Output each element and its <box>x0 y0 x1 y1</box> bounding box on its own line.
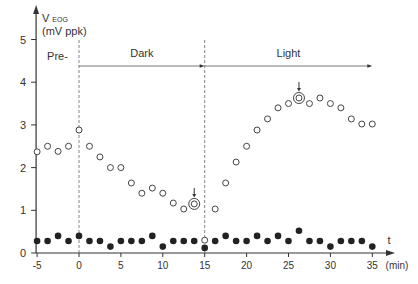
data-point-open <box>160 190 166 196</box>
data-point-open <box>128 180 134 186</box>
data-point-filled <box>233 238 240 245</box>
data-point-filled <box>243 238 250 245</box>
y-tick-label: 2 <box>20 162 26 174</box>
x-tick-label: 30 <box>325 260 337 271</box>
y-tick-label: 0 <box>20 247 26 259</box>
data-point-filled <box>139 238 146 245</box>
data-point-filled <box>44 238 51 245</box>
phase-arrowhead-icon <box>367 64 372 68</box>
data-point-filled <box>275 233 282 240</box>
data-point-open <box>317 95 323 101</box>
data-point-filled <box>34 238 41 245</box>
data-point-filled <box>170 238 177 245</box>
x-axis-label: t <box>387 234 390 246</box>
data-point-filled <box>128 238 135 245</box>
data-point-open <box>223 180 229 186</box>
data-point-open <box>181 206 187 212</box>
axes: 012345-505101520253035t(min)VEOG(mV ppk) <box>20 5 408 271</box>
data-point-open <box>338 105 344 111</box>
eog-chart: 012345-505101520253035t(min)VEOG(mV ppk)… <box>0 0 418 284</box>
y-tick-label: 5 <box>20 34 26 46</box>
data-point-open <box>107 165 113 171</box>
phase-label-light: Light <box>277 47 301 59</box>
down-arrow-icon <box>297 88 301 92</box>
x-tick-label: 20 <box>241 260 253 271</box>
phase-label-pre: Pre- <box>47 50 68 62</box>
data-point-filled <box>86 238 93 245</box>
x-axis-arrow-icon <box>386 250 395 256</box>
data-point-open <box>170 200 176 206</box>
x-axis-unit: (min) <box>386 260 409 271</box>
data-point-open <box>139 190 145 196</box>
data-point-filled <box>296 227 303 234</box>
y-axis-label: VEOG <box>42 12 68 24</box>
data-point-open <box>244 143 250 149</box>
data-point-open <box>34 149 40 155</box>
data-point-filled <box>327 243 334 250</box>
data-point-open <box>149 185 155 191</box>
data-point-open <box>55 148 61 154</box>
data-point-open <box>286 101 292 107</box>
data-point-filled <box>369 243 376 250</box>
data-point-open <box>191 201 197 207</box>
y-axis-arrow-icon <box>33 5 39 14</box>
data-point-open <box>86 143 92 149</box>
y-tick-label: 1 <box>20 204 26 216</box>
data-point-filled <box>359 238 366 245</box>
data-point-filled <box>149 233 156 240</box>
data-point-open <box>212 206 218 212</box>
x-tick-label: 35 <box>367 260 379 271</box>
data-point-filled <box>118 238 125 245</box>
data-point-open <box>233 159 239 165</box>
data-point-open <box>359 121 365 127</box>
data-point-open <box>296 95 302 101</box>
data-point-filled <box>180 238 187 245</box>
data-point-open <box>369 121 375 127</box>
data-point-open <box>348 116 354 122</box>
data-point-open <box>275 105 281 111</box>
x-tick-label: 10 <box>157 260 169 271</box>
x-tick-label: -5 <box>33 260 42 271</box>
phase-arrowhead-icon <box>200 64 205 68</box>
data-point-filled <box>285 238 292 245</box>
data-point-filled <box>222 233 229 240</box>
x-tick-label: 0 <box>76 260 82 271</box>
data-point-open <box>306 101 312 107</box>
x-tick-label: 15 <box>199 260 211 271</box>
data-point-open <box>76 127 82 133</box>
data-point-open <box>97 154 103 160</box>
data-point-open <box>265 116 271 122</box>
data-point-filled <box>317 238 324 245</box>
data-point-filled <box>191 238 198 245</box>
data-point-open <box>118 165 124 171</box>
data-point-filled <box>65 238 72 245</box>
data-point-filled <box>254 233 261 240</box>
y-tick-label: 3 <box>20 119 26 131</box>
data-point-filled <box>160 243 167 250</box>
phase-annotations: Pre-DarkLight <box>47 40 372 253</box>
data-point-filled <box>201 245 208 252</box>
x-tick-label: 5 <box>118 260 124 271</box>
data-point-filled <box>264 238 271 245</box>
data-point-filled <box>97 238 104 245</box>
data-point-filled <box>212 238 219 245</box>
down-arrow-icon <box>192 194 196 198</box>
data-point-filled <box>306 238 313 245</box>
y-tick-label: 4 <box>20 76 26 88</box>
data-point-open <box>254 127 260 133</box>
data-point-open <box>202 237 208 243</box>
data-point-filled <box>338 238 345 245</box>
data-point-open <box>66 143 72 149</box>
data-point-filled <box>348 238 355 245</box>
data-point-filled <box>107 243 114 250</box>
phase-label-dark: Dark <box>130 47 154 59</box>
data-point-open <box>45 143 51 149</box>
y-axis-unit: (mV ppk) <box>42 25 87 37</box>
x-tick-label: 25 <box>283 260 295 271</box>
data-point-filled <box>55 233 62 240</box>
data-point-open <box>327 101 333 107</box>
data-point-filled <box>76 233 83 240</box>
